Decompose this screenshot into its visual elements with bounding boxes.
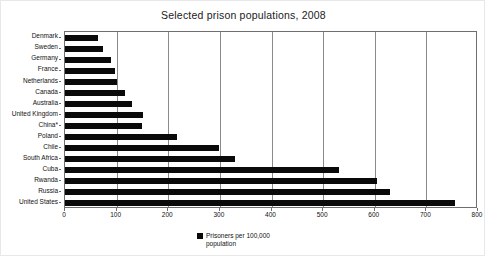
category-label: Cuba: [42, 166, 58, 173]
category-tick: [59, 103, 61, 104]
category-label: France: [38, 66, 58, 73]
category-label: United States: [19, 199, 58, 206]
x-axis: 0100200300400500600700800: [64, 208, 477, 224]
x-tick-label-400: 400: [265, 212, 276, 219]
bar-australia: [65, 101, 132, 107]
category-tick: [59, 147, 61, 148]
legend-swatch-prisoners: [197, 233, 203, 239]
category-label-row: China*: [1, 120, 61, 131]
bar-row: [65, 32, 476, 43]
plot-wrapper: [64, 31, 477, 208]
category-label: Australia: [33, 100, 58, 107]
category-label-row: United States: [1, 197, 61, 208]
category-label-row: Russia: [1, 186, 61, 197]
bar-row: [65, 109, 476, 120]
category-label: Netherlands: [23, 78, 58, 85]
category-label-row: Sweden: [1, 42, 61, 53]
category-label: Chile: [43, 144, 58, 151]
bar-sweden: [65, 46, 103, 52]
x-tick-label-200: 200: [162, 212, 173, 219]
plot-area: [64, 31, 477, 208]
category-tick: [59, 158, 61, 159]
bar-row: [65, 165, 476, 176]
bar-row: [65, 87, 476, 98]
category-label-row: South Africa: [1, 153, 61, 164]
category-label-row: Denmark: [1, 31, 61, 42]
bar-rwanda: [65, 178, 377, 184]
category-tick: [59, 48, 61, 49]
category-tick: [59, 191, 61, 192]
x-tick-label-800: 800: [472, 212, 483, 219]
bar-netherlands: [65, 79, 117, 85]
category-tick: [59, 81, 61, 82]
bar-row: [65, 154, 476, 165]
x-tick-label-500: 500: [317, 212, 328, 219]
bar-china: [65, 123, 142, 129]
bar-row: [65, 143, 476, 154]
bar-south-africa: [65, 156, 235, 162]
category-tick: [59, 136, 61, 137]
bar-row: [65, 121, 476, 132]
category-tick: [59, 202, 61, 203]
bar-chile: [65, 145, 219, 151]
category-label-row: Cuba: [1, 164, 61, 175]
category-label-row: Rwanda: [1, 175, 61, 186]
category-label-row: Australia: [1, 97, 61, 108]
bar-row: [65, 187, 476, 198]
category-tick: [59, 37, 61, 38]
category-label-row: Netherlands: [1, 75, 61, 86]
bar-germany: [65, 57, 111, 63]
category-label: United Kingdom: [12, 111, 58, 118]
category-label-row: Poland: [1, 131, 61, 142]
category-label-row: Germany: [1, 53, 61, 64]
category-label: Denmark: [32, 33, 58, 40]
category-label: China*: [38, 122, 58, 129]
category-label: Sweden: [35, 44, 59, 51]
bar-united-kingdom: [65, 112, 143, 118]
legend-label-prisoners: Prisoners per 100,000 population: [206, 232, 282, 248]
category-label: Canada: [35, 89, 58, 96]
bar-poland: [65, 134, 177, 140]
bar-row: [65, 54, 476, 65]
category-label-row: United Kingdom: [1, 108, 61, 119]
chart-legend: Prisoners per 100,000 population: [197, 232, 282, 248]
bar-denmark: [65, 35, 98, 41]
category-tick: [59, 180, 61, 181]
x-tick-label-300: 300: [213, 212, 224, 219]
x-tick-label-0: 0: [62, 212, 66, 219]
category-label-row: France: [1, 64, 61, 75]
chart-title: Selected prison populations, 2008: [1, 9, 485, 21]
bar-cuba: [65, 167, 339, 173]
bar-row: [65, 132, 476, 143]
category-tick: [59, 92, 61, 93]
bar-russia: [65, 189, 390, 195]
category-label: Poland: [38, 133, 58, 140]
category-tick: [59, 125, 61, 126]
category-label: Rwanda: [34, 177, 58, 184]
bar-row: [65, 43, 476, 54]
category-label: Russia: [38, 188, 58, 195]
bar-canada: [65, 90, 125, 96]
bar-row: [65, 76, 476, 87]
category-tick: [59, 114, 61, 115]
category-tick: [59, 59, 61, 60]
category-label-row: Canada: [1, 86, 61, 97]
x-tick-label-700: 700: [420, 212, 431, 219]
category-label: South Africa: [23, 155, 58, 162]
bar-france: [65, 68, 115, 74]
bar-row: [65, 98, 476, 109]
bars-layer: [65, 32, 476, 207]
category-tick: [59, 70, 61, 71]
category-tick: [59, 169, 61, 170]
bar-row: [65, 65, 476, 76]
bar-row: [65, 176, 476, 187]
prison-population-bar-chart: Selected prison populations, 2008 Denmar…: [0, 0, 485, 256]
x-tick-label-600: 600: [368, 212, 379, 219]
category-label: Germany: [31, 55, 58, 62]
category-label-row: Chile: [1, 142, 61, 153]
category-axis: DenmarkSwedenGermanyFranceNetherlandsCan…: [1, 31, 61, 208]
bar-united-states: [65, 200, 455, 206]
x-tick-label-100: 100: [110, 212, 121, 219]
